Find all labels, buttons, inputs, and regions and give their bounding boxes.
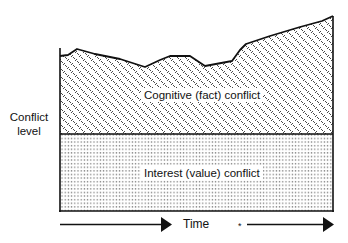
x-axis-label: Time (183, 217, 209, 231)
y-axis-label-line2: level (2, 124, 56, 138)
y-axis-label: Conflict level (2, 110, 56, 138)
y-axis-label-line1: Conflict (2, 110, 56, 124)
interest-conflict-label: Interest (value) conflict (141, 166, 263, 180)
cognitive-conflict-label: Cognitive (fact) conflict (141, 88, 263, 102)
cognitive-conflict-region (60, 16, 333, 134)
time-marker: * (238, 221, 242, 231)
arrow-right-icon (247, 217, 334, 232)
arrow-right-icon (60, 217, 172, 232)
